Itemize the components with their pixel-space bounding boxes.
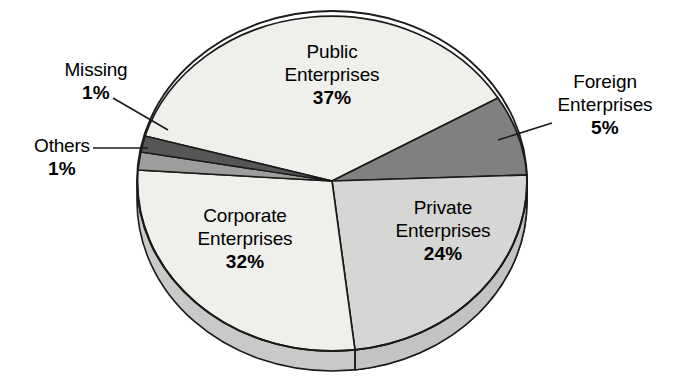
pie-label-foreign: Foreign Enterprises 5%: [540, 70, 670, 140]
pie-label-missing-line1: Missing: [40, 58, 152, 81]
pie-label-foreign-line1: Foreign: [540, 70, 670, 93]
pie-label-private-value: 24%: [368, 242, 518, 265]
pie-label-private-line1: Private: [368, 196, 518, 219]
pie-label-missing-value: 1%: [40, 81, 152, 104]
pie-label-public-line2: Enterprises: [248, 63, 416, 86]
pie-label-others-line1: Others: [14, 134, 110, 157]
pie-label-corporate-line2: Enterprises: [160, 227, 330, 250]
pie-label-missing: Missing 1%: [40, 58, 152, 104]
pie-label-public: Public Enterprises 37%: [248, 40, 416, 110]
pie-label-public-line1: Public: [248, 40, 416, 63]
pie-label-public-value: 37%: [248, 86, 416, 109]
pie-label-foreign-line2: Enterprises: [540, 93, 670, 116]
pie-label-private-line2: Enterprises: [368, 219, 518, 242]
pie-label-private: Private Enterprises 24%: [368, 196, 518, 266]
pie-label-others: Others 1%: [14, 134, 110, 180]
pie-label-others-value: 1%: [14, 157, 110, 180]
pie-label-corporate: Corporate Enterprises 32%: [160, 204, 330, 274]
pie-label-foreign-value: 5%: [540, 116, 670, 139]
pie-label-corporate-line1: Corporate: [160, 204, 330, 227]
pie-label-corporate-value: 32%: [160, 250, 330, 273]
pie-chart: Public Enterprises 37% Foreign Enterpris…: [0, 0, 676, 379]
